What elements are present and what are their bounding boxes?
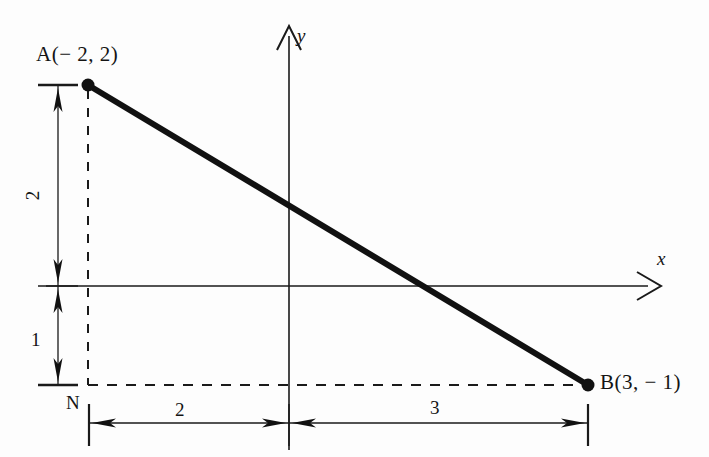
- dimension-label-vertical-1: 1: [31, 330, 41, 349]
- dimension-label-horizontal-3: 3: [430, 398, 440, 417]
- segment-AB-group: [82, 79, 595, 392]
- point-label-A: A(− 2, 2): [36, 44, 118, 65]
- point-label-B: B(3, − 1): [600, 372, 681, 393]
- guide-lines-group: [88, 90, 582, 385]
- segment-AB-line: [88, 85, 588, 385]
- point-label-N: N: [66, 393, 80, 412]
- point-A-marker: [82, 79, 95, 92]
- point-B-marker: [582, 379, 595, 392]
- y-axis-label: y: [297, 26, 305, 45]
- x-axis-label: x: [657, 249, 665, 268]
- dimension-label-vertical-2: 2: [23, 191, 42, 201]
- dimension-label-horizontal-2: 2: [175, 400, 185, 419]
- axes-group: [46, 26, 661, 450]
- figure-canvas: A(− 2, 2) B(3, − 1) N x y 2 1 2 3: [0, 0, 709, 457]
- horizontal-dimension-group: [89, 404, 588, 446]
- vertical-dimension-group: [38, 85, 78, 385]
